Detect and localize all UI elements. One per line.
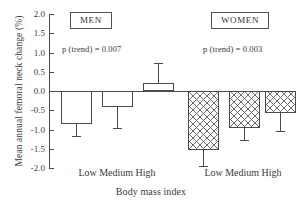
error-cap-men-high xyxy=(154,63,163,64)
y-tick-label: -1.5 xyxy=(31,144,45,154)
error-bar-men-medium xyxy=(117,107,118,128)
error-cap-women-medium xyxy=(240,140,249,141)
group-label-women: WOMEN xyxy=(211,12,269,29)
x-tick-labels-women: Low Medium High xyxy=(204,167,281,178)
x-axis-title: Body mass index xyxy=(0,186,302,197)
y-tick-label: 0.5 xyxy=(34,67,45,77)
bar-men-low xyxy=(61,91,92,124)
error-cap-men-low xyxy=(72,136,81,137)
y-axis-title: Mean annual femoral neck change (%) xyxy=(14,3,24,179)
bar-women-low xyxy=(188,91,219,150)
chart-figure: Mean annual femoral neck change (%) 2.0 … xyxy=(0,0,302,206)
error-bar-women-medium xyxy=(244,128,245,140)
y-tick-label: -2.0 xyxy=(31,163,45,173)
bar-women-high xyxy=(265,91,296,113)
error-cap-men-medium xyxy=(113,128,122,129)
bar-men-medium xyxy=(102,91,133,107)
error-cap-women-high xyxy=(276,131,285,132)
y-tick-label: 1.0 xyxy=(34,48,45,58)
bar-women-medium xyxy=(229,91,260,128)
x-tick-labels-men: Low Medium High xyxy=(78,167,155,178)
plot-area: 2.0 1.5 1.0 0.5 0.0 -0.5 -1.0 -1.5 xyxy=(49,14,296,169)
p-value-women: p (trend) = 0.003 xyxy=(203,44,262,54)
error-bar-women-low xyxy=(203,150,204,166)
y-tick-label: 2.0 xyxy=(34,9,45,19)
group-label-men: MEN xyxy=(70,12,112,29)
error-bar-men-high xyxy=(158,63,159,84)
p-value-men: p (trend) = 0.007 xyxy=(62,44,121,54)
y-tick-label: 0.0 xyxy=(34,86,45,96)
bar-men-high xyxy=(143,83,174,91)
y-tick-label: 1.5 xyxy=(34,28,45,38)
y-tick-label: -0.5 xyxy=(31,105,45,115)
error-bar-women-high xyxy=(280,113,281,132)
y-tick-label: -1.0 xyxy=(31,125,45,135)
